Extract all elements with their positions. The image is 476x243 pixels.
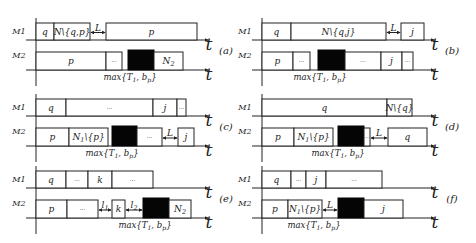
time-label: t (432, 64, 439, 84)
ellipsis-label: ... (179, 103, 185, 110)
machine-label-m1: M1 (237, 27, 251, 36)
blocked-interval (338, 126, 364, 146)
job-label: p (275, 56, 281, 66)
ellipsis-label: ... (130, 175, 136, 182)
panel-caption: (b) (445, 45, 459, 56)
time-label: t (432, 182, 439, 202)
ellipsis-label: ... (405, 56, 411, 63)
job-label: k (116, 204, 121, 214)
job-label: q (405, 132, 411, 142)
max-label: max{T1, bp} (311, 148, 364, 160)
job-label: p (272, 204, 278, 214)
machine-label-m2: M2 (237, 51, 251, 60)
time-label: t (206, 212, 213, 232)
ellipsis-label: ... (107, 103, 113, 110)
max-label: max{T1, bp} (293, 72, 346, 84)
max-label: max{T1, bp} (85, 148, 138, 160)
job-label: q (274, 175, 280, 185)
machine-label-m1: M1 (11, 175, 25, 184)
job-label: N\{q} (384, 103, 413, 113)
blocked-interval (318, 50, 345, 70)
job-label: p (275, 132, 281, 142)
ellipsis-label: ... (147, 132, 153, 139)
lag-label: L (390, 23, 397, 33)
ellipsis-label: ... (351, 175, 357, 182)
ellipsis-label: .. (365, 132, 369, 139)
ellipsis-label: ... (74, 175, 80, 182)
blocked-interval (143, 198, 169, 218)
job-label: p (50, 132, 56, 142)
job-label: k (97, 175, 102, 185)
lag-label: L (166, 128, 173, 138)
job-label: q (42, 27, 48, 37)
lag-label: L (326, 200, 333, 210)
job-label: p (149, 27, 155, 37)
job-label: p (49, 204, 55, 214)
time-label: t (432, 110, 439, 130)
panel-a: M1M2tt(a)qN\{q,p}Lpp...N2max{T1, bp} (11, 18, 233, 86)
panel-b: M1M2tt(b)qN\{q,j}Ljp......j...max{T1, bp… (237, 18, 459, 86)
machine-label-m2: M2 (237, 199, 251, 208)
time-label: t (432, 140, 439, 160)
job-label: N\{q,j} (321, 27, 356, 37)
lag-label: L (94, 23, 101, 33)
job-label: q (274, 27, 280, 37)
time-label: t (206, 140, 213, 160)
panel-caption: (a) (219, 45, 233, 56)
gantt-diagram: M1M2tt(a)qN\{q,p}Lpp...N2max{T1, bp}M1M2… (0, 0, 476, 243)
machine-label-m1: M1 (11, 27, 25, 36)
panel-caption: (c) (219, 121, 233, 132)
max-label: max{T1, bp} (287, 220, 340, 232)
ellipsis-label: ... (296, 175, 302, 182)
machine-label-m2: M2 (11, 199, 25, 208)
max-label: max{T1, bp} (103, 72, 156, 84)
panel-e: M1M2tt(e)q...k...p...l1kl2N2max{T1, bp} (11, 166, 233, 234)
time-label: t (206, 64, 213, 84)
job-label: q (322, 103, 328, 113)
blocked-interval (338, 198, 364, 218)
time-label: t (432, 212, 439, 232)
machine-label-m2: M2 (11, 127, 25, 136)
machine-label-m2: M2 (237, 127, 251, 136)
time-label: t (206, 34, 213, 54)
machine-label-m1: M1 (11, 103, 25, 112)
panel-c: M1M2tt(c)q...j...pN1\{p}...Ljmax{T1, bp} (11, 94, 232, 162)
time-label: t (206, 182, 213, 202)
ellipsis-label: ... (299, 56, 305, 63)
job-label: N\{q,p} (53, 27, 91, 37)
job-label: q (48, 175, 54, 185)
panel-caption: (f) (446, 193, 458, 204)
ellipsis-label: ... (111, 56, 117, 63)
machine-label-m1: M1 (237, 103, 251, 112)
machine-label-m2: M2 (11, 51, 25, 60)
panel-caption: (d) (445, 121, 459, 132)
ellipsis-label: ... (80, 204, 86, 211)
max-label: max{T1, bp} (118, 220, 171, 232)
job-label: p (68, 56, 74, 66)
time-label: t (206, 110, 213, 130)
ellipsis-label: ... (360, 56, 366, 63)
blocked-interval (112, 126, 137, 146)
lag-label: L (375, 128, 382, 138)
job-label: q (48, 103, 54, 113)
panel-d: M1M2tt(d)qN\{q}pN1\{p}..Lqmax{T1, bp} (237, 94, 459, 162)
blocked-interval (128, 50, 154, 70)
time-label: t (432, 34, 439, 54)
machine-label-m1: M1 (237, 175, 251, 184)
panel-f: M1M2tt(f)q...j...pN1\{p}Ljmax{T1, bp} (237, 166, 457, 234)
panel-caption: (e) (219, 193, 233, 204)
